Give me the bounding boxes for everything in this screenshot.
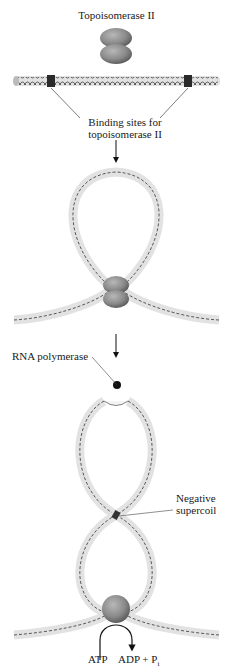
linear-dna-icon [13,75,220,87]
diagram-canvas [0,0,233,667]
adp-text: ADP + P [118,653,157,665]
binding-site-right-icon [184,75,192,87]
negative-supercoil-label-2: supercoil [176,504,216,516]
pi-subscript: i [157,660,159,667]
topoisomerase-enzyme-icon [100,28,132,64]
rna-polymerase-label: RNA polymerase [12,350,88,362]
binding-sites-label-2: topoisomerase II [70,128,180,140]
topoisomerase-supercoil-icon [102,595,130,623]
negative-supercoil-label-1: Negative [176,492,216,504]
binding-site-left-icon [47,75,55,87]
title-label: Topoisomerase II [0,9,233,21]
atp-label: ATP [88,653,108,665]
binding-sites-label-1: Binding sites for [70,116,180,128]
adp-pi-label: ADP + Pi [118,653,159,667]
